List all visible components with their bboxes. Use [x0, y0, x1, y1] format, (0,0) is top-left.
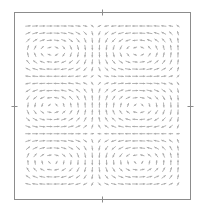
arrow-head: [28, 25, 30, 27]
arrow-head: [136, 90, 138, 92]
arrow-head: [91, 48, 93, 50]
arrow-head: [36, 133, 38, 135]
arrow-head: [47, 68, 49, 70]
arrow-head: [118, 25, 120, 27]
arrow-head: [177, 113, 179, 115]
arrow-head: [143, 68, 145, 70]
arrow-head: [169, 133, 171, 135]
arrow-head: [47, 82, 49, 84]
arrow-head: [133, 126, 135, 128]
arrow-head: [140, 133, 142, 135]
arrow-head: [106, 103, 108, 105]
arrow-head: [136, 68, 138, 70]
arrow-head: [43, 133, 45, 135]
arrow-head: [40, 183, 42, 185]
arrow-head: [57, 147, 59, 149]
arrow-head: [177, 160, 179, 162]
arrow-head: [50, 147, 52, 149]
arrow-head: [98, 133, 100, 135]
vector-field-arrows: [26, 25, 180, 185]
arrow-head: [157, 75, 159, 77]
arrow-head: [154, 133, 156, 135]
arrow-head: [57, 126, 59, 128]
arrow-head: [47, 183, 49, 185]
arrow-head: [40, 83, 42, 85]
arrow-head: [47, 75, 49, 77]
arrow-head: [61, 75, 63, 77]
arrow-head: [91, 96, 93, 98]
arrow-head: [177, 133, 179, 135]
arrow-head: [133, 32, 135, 34]
arrow-head: [177, 167, 179, 169]
arrow-head: [140, 140, 142, 142]
arrow-head: [163, 160, 165, 162]
arrow-head: [143, 183, 145, 185]
arrow-head: [43, 140, 45, 142]
arrow-head: [129, 75, 131, 77]
arrow-head: [133, 25, 135, 27]
arrow-head: [29, 133, 31, 135]
quiver-plot: [0, 0, 204, 212]
arrow-head: [54, 82, 56, 84]
arrow-head: [54, 183, 56, 185]
arrow-head: [113, 103, 115, 105]
arrow-head: [177, 153, 179, 155]
arrow-head: [72, 133, 74, 135]
arrow-head: [122, 75, 124, 77]
arrow-head: [150, 75, 152, 77]
arrow-head: [91, 110, 93, 112]
arrow-head: [54, 75, 56, 77]
arrow-head: [50, 25, 52, 27]
arrow-head: [84, 103, 86, 105]
arrow-head: [57, 133, 59, 135]
arrow-head: [50, 133, 52, 135]
arrow-head: [47, 97, 49, 99]
arrow-head: [61, 183, 63, 185]
arrow-head: [106, 163, 108, 165]
arrow-head: [36, 25, 38, 27]
arrow-head: [140, 126, 142, 128]
arrow-head: [40, 75, 42, 77]
arrow-head: [129, 82, 131, 84]
arrow-head: [125, 140, 127, 142]
arrow-head: [113, 163, 115, 165]
arrow-head: [57, 25, 59, 27]
arrow-head: [161, 133, 163, 135]
arrow-head: [85, 133, 87, 135]
arrow-head: [133, 133, 135, 135]
arrow-head: [135, 61, 137, 63]
arrow-head: [170, 105, 172, 107]
arrow-head: [50, 32, 52, 34]
arrow-head: [98, 55, 100, 57]
arrow-head: [91, 62, 93, 64]
arrow-head: [150, 183, 152, 185]
arrow-head: [177, 52, 179, 54]
arrow-head: [147, 25, 149, 27]
arrow-head: [50, 140, 52, 142]
arrow-head: [47, 90, 49, 92]
arrow-head: [91, 170, 93, 172]
arrow-head: [118, 133, 120, 135]
arrow-head: [133, 39, 135, 41]
arrow-head: [47, 176, 49, 178]
arrow-head: [98, 163, 100, 165]
arrow-head: [78, 133, 80, 135]
arrow-head: [72, 25, 74, 27]
arrow-head: [154, 25, 156, 27]
arrow-head: [65, 133, 67, 135]
arrow-head: [143, 75, 145, 77]
axis-ticks: [12, 10, 194, 203]
arrow-head: [133, 140, 135, 142]
arrow-head: [147, 133, 149, 135]
arrow-head: [50, 118, 52, 120]
arrow-head: [98, 103, 100, 105]
arrow-head: [78, 25, 80, 27]
arrow-head: [57, 140, 59, 142]
arrow-head: [111, 133, 113, 135]
arrow-head: [136, 75, 138, 77]
arrow-head: [98, 48, 100, 50]
arrow-head: [54, 176, 56, 178]
arrow-head: [27, 105, 29, 107]
arrow-head: [64, 25, 66, 27]
arrow-head: [150, 83, 152, 85]
